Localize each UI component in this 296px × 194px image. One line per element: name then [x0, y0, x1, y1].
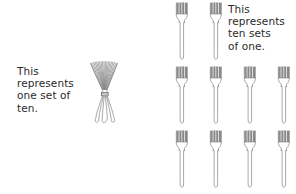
caption-ten-sets-of-one: This represents ten sets of one.: [228, 3, 285, 52]
illustration-canvas: This represents one set of ten.: [0, 0, 296, 194]
fork-icon: [205, 1, 227, 63]
fork-icon: [205, 65, 227, 127]
fork-icon: [239, 65, 261, 127]
fork-icon: [239, 129, 261, 191]
fork-icon: [273, 129, 295, 191]
fork-icon: [205, 129, 227, 191]
fork-icon: [273, 65, 295, 127]
fork-icon: [171, 65, 193, 127]
caption-one-set-of-ten: This represents one set of ten.: [17, 65, 74, 114]
fork-icon: [171, 1, 193, 63]
fork-bundle-icon: [86, 60, 122, 126]
fork-icon: [171, 129, 193, 191]
